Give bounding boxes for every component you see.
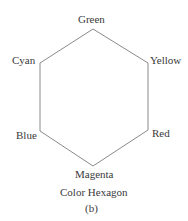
- vertex-label-green: Green: [78, 13, 105, 25]
- vertex-label-red: Red: [152, 127, 170, 139]
- diagram-title: Color Hexagon: [60, 186, 128, 198]
- vertex-label-blue: Blue: [16, 129, 37, 141]
- vertex-label-yellow: Yellow: [150, 54, 181, 66]
- hexagon-outline: [40, 29, 148, 166]
- diagram-subtitle: (b): [85, 202, 98, 214]
- vertex-label-cyan: Cyan: [12, 54, 35, 66]
- vertex-label-magenta: Magenta: [75, 168, 113, 180]
